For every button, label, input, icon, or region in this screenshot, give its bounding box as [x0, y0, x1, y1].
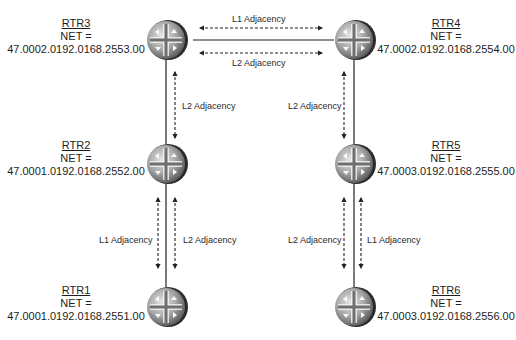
- router-label-rtr6: RTR6 NET = 47.0003.0192.0168.2556.00: [376, 284, 516, 323]
- adjacency-label-l2-rtr3-rtr4: L2 Adjacency: [232, 58, 286, 69]
- net-title: NET =: [376, 297, 516, 310]
- router-icon: [335, 287, 376, 327]
- router-name: RTR2: [6, 139, 146, 152]
- adjacency-label-l1-rtr5-rtr6: L1 Adjacency: [367, 235, 421, 246]
- net-address: 47.0001.0192.0168.2552.00: [6, 165, 146, 178]
- router-name: RTR1: [6, 284, 146, 297]
- net-address: 47.0002.0192.0168.2554.00: [376, 43, 516, 56]
- adjacency-label-l2-rtr4-rtr5: L2 Adjacency: [288, 101, 342, 112]
- physical-links: [166, 40, 354, 287]
- net-address: 47.0003.0192.0168.2556.00: [376, 310, 516, 323]
- router-name: RTR6: [376, 284, 516, 297]
- adjacency-label-l2-rtr5-rtr6: L2 Adjacency: [288, 235, 342, 246]
- adjacency-label-l1-rtr3-rtr4: L1 Adjacency: [232, 14, 286, 25]
- adjacency-label-l1-rtr2-rtr1: L1 Adjacency: [99, 235, 153, 246]
- router-icon: [147, 20, 188, 60]
- router-name: RTR4: [376, 17, 516, 30]
- router-icon: [147, 287, 188, 327]
- router-icon: [335, 20, 376, 60]
- router-name: RTR3: [6, 17, 146, 30]
- router-label-rtr5: RTR5 NET = 47.0003.0192.0168.2555.00: [376, 139, 516, 178]
- adjacency-label-l2-rtr2-rtr1: L2 Adjacency: [183, 235, 237, 246]
- adjacency-label-l2-rtr3-rtr2: L2 Adjacency: [182, 101, 236, 112]
- net-address: 47.0003.0192.0168.2555.00: [376, 165, 516, 178]
- router-label-rtr4: RTR4 NET = 47.0002.0192.0168.2554.00: [376, 17, 516, 56]
- net-address: 47.0001.0192.0168.2551.00: [6, 310, 146, 323]
- net-title: NET =: [6, 30, 146, 43]
- net-address: 47.0002.0192.0168.2553.00: [6, 43, 146, 56]
- router-label-rtr3: RTR3 NET = 47.0002.0192.0168.2553.00: [6, 17, 146, 56]
- router-icon: [335, 144, 376, 184]
- isis-adjacency-diagram: RTR3 NET = 47.0002.0192.0168.2553.00 RTR…: [0, 0, 516, 340]
- net-title: NET =: [6, 152, 146, 165]
- net-title: NET =: [6, 297, 146, 310]
- router-name: RTR5: [376, 139, 516, 152]
- router-label-rtr2: RTR2 NET = 47.0001.0192.0168.2552.00: [6, 139, 146, 178]
- router-label-rtr1: RTR1 NET = 47.0001.0192.0168.2551.00: [6, 284, 146, 323]
- net-title: NET =: [376, 152, 516, 165]
- router-icon: [147, 144, 188, 184]
- net-title: NET =: [376, 30, 516, 43]
